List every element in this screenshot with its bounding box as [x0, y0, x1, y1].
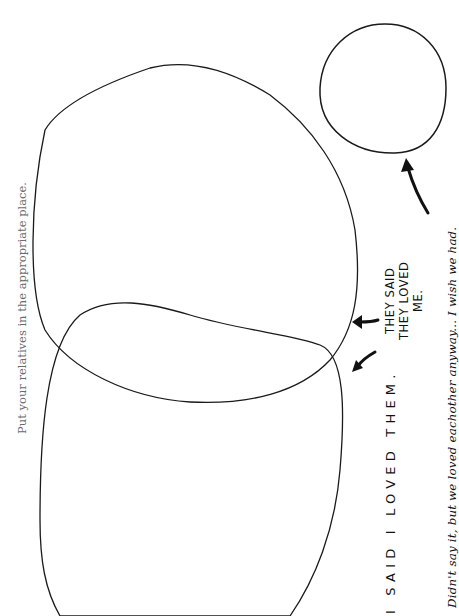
- upper-large-circle[interactable]: [33, 64, 358, 402]
- label-they-said: THEY SAID THEY LOVED ME.: [383, 262, 425, 340]
- arrow-they-said-icon: [352, 315, 378, 329]
- label-i-said: I SAID I LOVED THEM.: [383, 369, 398, 614]
- label-they-said-line1: THEY SAID: [383, 262, 397, 340]
- arrow-small-circle-icon: [401, 158, 428, 213]
- label-they-said-line2: THEY LOVED: [397, 262, 411, 340]
- arrow-i-said-icon: [352, 352, 375, 372]
- small-circle[interactable]: [320, 24, 446, 153]
- label-didnt-say: Didn't say it, but we loved eachother an…: [445, 227, 459, 608]
- instruction-text: Put your relatives in the appropriate pl…: [15, 182, 29, 434]
- label-they-said-line3: ME.: [411, 262, 425, 340]
- lower-large-circle[interactable]: [40, 303, 343, 616]
